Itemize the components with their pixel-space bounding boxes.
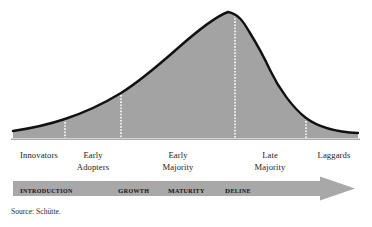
category-label-early-adopters: Early Adopters: [63, 150, 123, 173]
adoption-curve-plot: [0, 0, 372, 142]
lifecycle-stage-deline: Deline: [225, 184, 251, 195]
lifecycle-stage-maturity: Maturity: [168, 184, 205, 195]
category-label-early-adopters-line1: Early: [83, 150, 102, 160]
lifecycle-stage-introduction: Introduction: [20, 184, 73, 195]
category-label-early-majority: Early Majority: [148, 150, 208, 173]
category-label-late-majority-line2: Majority: [240, 162, 300, 174]
adopter-category-labels: Innovators Early Adopters Early Majority…: [0, 140, 372, 174]
lifecycle-stage-growth: Growth: [118, 184, 149, 195]
adoption-curve-figure: Innovators Early Adopters Early Majority…: [0, 0, 372, 227]
category-label-laggards: Laggards: [302, 150, 366, 162]
bell-curve-svg: [0, 0, 372, 142]
category-label-early-majority-line2: Majority: [148, 162, 208, 174]
category-label-early-adopters-line2: Adopters: [63, 162, 123, 174]
category-label-innovators-line1: Innovators: [20, 150, 58, 160]
category-label-early-majority-line1: Early: [168, 150, 187, 160]
category-label-late-majority-line1: Late: [262, 150, 278, 160]
category-label-late-majority: Late Majority: [240, 150, 300, 173]
source-note: Source: Schütte.: [11, 207, 61, 216]
category-label-laggards-line1: Laggards: [318, 150, 351, 160]
